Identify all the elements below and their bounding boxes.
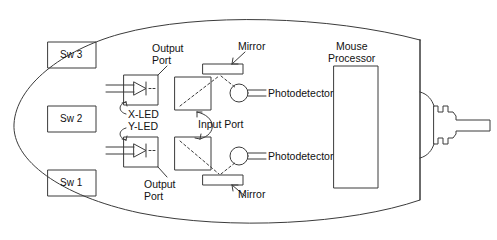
mirror-top-label: Mirror — [238, 40, 265, 52]
y-led-output-port-leader — [158, 167, 167, 177]
photodetector-bottom-label: Photodetector — [268, 150, 333, 162]
input-port-label: Input Port — [198, 118, 244, 130]
x-led-diode-triangle — [134, 82, 146, 95]
output-port-bottom-label-line2: Port — [144, 190, 163, 202]
output-port-bottom-label-line1: Output — [144, 178, 176, 190]
beam-top-to-mirror — [180, 76, 219, 106]
x-led-callout-arrow — [120, 102, 126, 114]
beam-bottom-to-mirror — [180, 141, 219, 174]
mirror-top — [203, 64, 243, 74]
sensor-box-top — [175, 77, 211, 110]
mouse-cable — [434, 106, 490, 144]
x-led-output-port-leader — [158, 66, 167, 75]
x-led-box — [124, 75, 158, 105]
photodetector-top-label: Photodetector — [268, 87, 333, 99]
output-port-top-label-line1: Output — [152, 42, 184, 54]
x-led-label: X-LED — [128, 108, 159, 120]
mouse-processor-box — [334, 66, 378, 188]
photodetector-top-circle — [230, 84, 248, 102]
y-led-callout-arrow — [120, 128, 126, 140]
mirror-bottom — [203, 175, 243, 185]
switch-label-sw2: Sw 2 — [60, 113, 82, 124]
cable-strain-relief-lower — [420, 144, 434, 158]
mirror-top-leader — [232, 52, 245, 64]
mouse-schematic-figure: Sw 3 Sw 2 Sw 1 Output Port Output Port X… — [0, 0, 497, 240]
mouse-processor-label-line2: Processor — [328, 52, 375, 64]
mouse-processor-label-line1: Mouse — [336, 40, 368, 52]
y-led-label: Y-LED — [128, 120, 158, 132]
cable-strain-relief-upper — [420, 92, 434, 106]
mirror-bottom-label: Mirror — [238, 188, 265, 200]
switch-label-sw1: Sw 1 — [60, 177, 82, 188]
y-led-box — [124, 137, 158, 167]
y-led-diode-triangle — [134, 144, 146, 157]
switch-label-sw3: Sw 3 — [60, 49, 82, 60]
photodetector-bottom-circle — [230, 147, 248, 165]
output-port-top-label-line2: Port — [152, 54, 171, 66]
